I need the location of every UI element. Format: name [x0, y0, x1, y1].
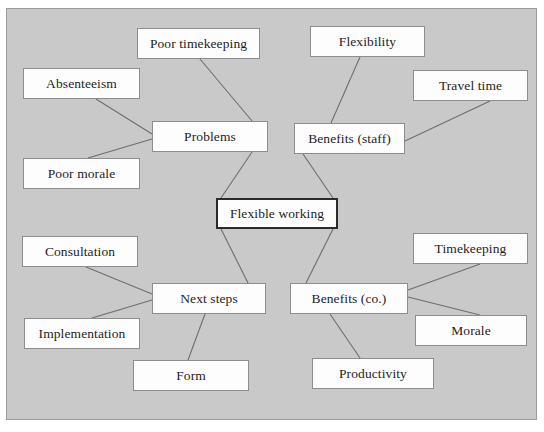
node-poor-timekeeping[interactable]: Poor timekeeping: [137, 28, 260, 59]
node-productivity[interactable]: Productivity: [312, 358, 434, 389]
node-absenteeism[interactable]: Absenteeism: [23, 68, 140, 99]
connector-next-steps-to-implementation: [92, 300, 152, 318]
connector-benefits-staff-to-travel-time: [405, 101, 490, 141]
connector-benefits-co-to-morale: [408, 297, 480, 315]
connector-flexible-working-to-benefits-co: [306, 229, 333, 283]
node-label: Flexibility: [339, 35, 396, 49]
node-benefits-staff[interactable]: Benefits (staff): [294, 123, 405, 154]
connector-flexible-working-to-problems: [221, 152, 252, 198]
node-label: Form: [176, 369, 206, 383]
connector-benefits-co-to-productivity: [330, 314, 360, 358]
node-travel-time[interactable]: Travel time: [413, 70, 528, 101]
node-label: Poor timekeeping: [150, 37, 247, 51]
node-timekeeping[interactable]: Timekeeping: [413, 233, 528, 264]
connector-problems-to-poor-morale: [88, 139, 152, 158]
node-label: Benefits (staff): [308, 132, 391, 146]
connector-next-steps-to-form: [188, 314, 205, 360]
mind-map-canvas: Poor timekeepingAbsenteeismProblemsPoor …: [0, 0, 544, 432]
node-label: Travel time: [439, 79, 502, 93]
node-benefits-co[interactable]: Benefits (co.): [290, 283, 408, 314]
connector-benefits-staff-to-flexibility: [331, 57, 360, 123]
node-label: Flexible working: [230, 207, 324, 221]
node-label: Benefits (co.): [312, 292, 387, 306]
connector-flexible-working-to-next-steps: [221, 229, 248, 283]
connector-next-steps-to-consultation: [86, 267, 152, 294]
node-label: Absenteeism: [46, 77, 117, 91]
connector-problems-to-absenteeism: [96, 99, 152, 134]
node-next-steps[interactable]: Next steps: [152, 283, 266, 314]
node-form[interactable]: Form: [133, 360, 249, 391]
node-label: Next steps: [180, 292, 238, 306]
node-label: Consultation: [45, 245, 115, 259]
connector-problems-to-poor-timekeeping: [200, 59, 252, 121]
node-label: Implementation: [39, 327, 126, 341]
connector-benefits-co-to-timekeeping: [408, 264, 480, 290]
node-label: Timekeeping: [435, 242, 507, 256]
node-poor-morale[interactable]: Poor morale: [23, 158, 140, 189]
node-label: Poor morale: [48, 167, 115, 181]
node-morale[interactable]: Morale: [415, 315, 527, 346]
node-label: Morale: [451, 324, 491, 338]
connector-flexible-working-to-benefits-staff: [303, 154, 333, 198]
node-label: Problems: [184, 130, 236, 144]
center-node-flexible-working[interactable]: Flexible working: [216, 198, 338, 229]
node-problems[interactable]: Problems: [152, 121, 268, 152]
node-consultation[interactable]: Consultation: [22, 236, 138, 267]
node-label: Productivity: [339, 367, 407, 381]
node-implementation[interactable]: Implementation: [24, 318, 140, 349]
node-flexibility[interactable]: Flexibility: [310, 26, 425, 57]
